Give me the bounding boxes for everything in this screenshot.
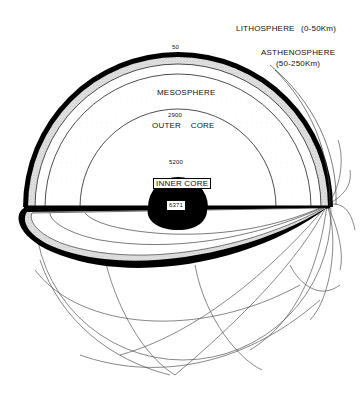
lithosphere-label: LITHOSPHERE (0-50Km) bbox=[236, 24, 336, 33]
depth-250: 250 bbox=[170, 52, 181, 58]
asthenosphere-label: ASTHENOSPHERE bbox=[261, 48, 335, 57]
depth-2900: 2900 bbox=[168, 112, 182, 118]
depth-6371: 6371 bbox=[167, 201, 185, 210]
equatorial-slice bbox=[19, 207, 328, 268]
depth-5200: 5200 bbox=[169, 159, 183, 165]
lithosphere-range: (0-50Km) bbox=[301, 24, 336, 33]
mesosphere-label: MESOSPHERE bbox=[157, 88, 215, 97]
inner-core-label: INNER CORE bbox=[153, 178, 211, 189]
lithosphere-text: LITHOSPHERE bbox=[236, 24, 295, 33]
asthenosphere-range: (50-250Km) bbox=[276, 59, 320, 68]
depth-50: 50 bbox=[172, 44, 179, 50]
outer-core-label: OUTER CORE bbox=[152, 121, 215, 130]
